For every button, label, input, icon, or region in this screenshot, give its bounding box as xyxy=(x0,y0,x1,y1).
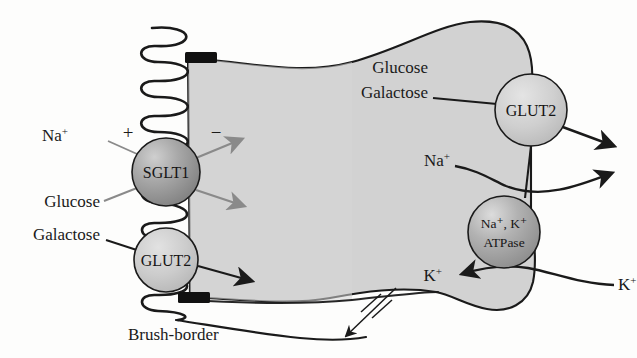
na-k-atpase-pump[interactable] xyxy=(468,196,540,268)
paracellular-arrow xyxy=(346,288,396,336)
paracellular-block-slash-1 xyxy=(361,294,381,312)
cell-shading xyxy=(188,58,352,302)
tight-junction-apical xyxy=(185,52,217,63)
label-glucose-apical: Glucose xyxy=(44,192,100,211)
label-glucose-basal: Glucose xyxy=(372,58,428,77)
transport-diagram: + − Na+ Glucose Galactose Brush-border S… xyxy=(0,0,637,358)
charge-minus-sign: − xyxy=(211,122,222,143)
diagram-canvas: + − Na+ Glucose Galactose Brush-border S… xyxy=(0,0,637,358)
na-k-atpase-label-line1: Na⁺, K⁺ xyxy=(481,216,528,231)
glut2-basolateral-label: GLUT2 xyxy=(506,102,557,119)
na-k-atpase-label-line2: ATPase xyxy=(483,235,524,250)
charge-plus-sign: + xyxy=(123,122,134,143)
label-k-outside: K+ xyxy=(618,274,637,294)
label-galactose-apical: Galactose xyxy=(33,225,100,244)
sglt1-label: SGLT1 xyxy=(143,164,190,181)
glut2-apical-label: GLUT2 xyxy=(141,252,192,269)
tight-junction-basal xyxy=(178,292,210,303)
label-galactose-basal: Galactose xyxy=(361,83,428,102)
label-brush-border: Brush-border xyxy=(128,325,219,344)
arrow-glut2-basal-out xyxy=(560,126,614,146)
label-na-apical: Na+ xyxy=(42,125,68,145)
